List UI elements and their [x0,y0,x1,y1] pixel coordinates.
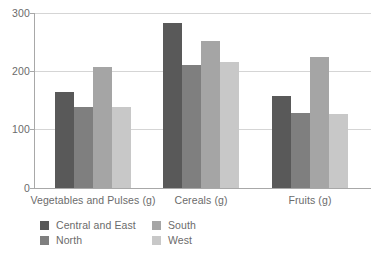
x-axis-labels: Vegetables and Pulses (g)Cereals (g)Frui… [0,194,381,214]
legend-label: Central and East [56,220,136,231]
legend-swatch-icon [152,236,161,245]
bar [291,113,310,188]
bar [182,65,201,188]
legend-label: West [168,235,192,246]
plot-area: 300 200 100 0 [0,0,381,200]
bar [93,67,112,188]
bar [272,96,291,188]
legend-item: South [152,220,196,231]
legend-label: South [168,220,196,231]
bar [310,57,329,188]
x-axis-label: Fruits (g) [230,194,381,207]
bar [201,41,220,188]
legend: Central and EastNorthSouthWest [40,220,340,250]
legend-item: Central and East [40,220,136,231]
legend-swatch-icon [40,221,49,230]
bar [329,114,348,188]
legend-swatch-icon [40,236,49,245]
legend-item: North [40,235,82,246]
bar-chart: 300 200 100 0 Vegetables and Pulses (g)C… [0,0,381,253]
bars-layer [0,0,381,200]
bar [55,92,74,188]
bar [74,107,93,188]
legend-swatch-icon [152,221,161,230]
legend-label: North [56,235,82,246]
legend-item: West [152,235,192,246]
bar [112,107,131,188]
bar [220,62,239,188]
bar [163,23,182,188]
